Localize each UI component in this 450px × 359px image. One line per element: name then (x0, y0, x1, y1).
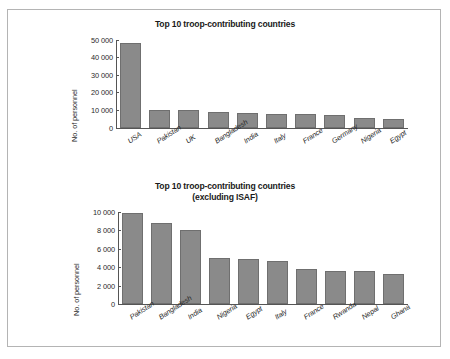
figure-frame: Top 10 troop-contributing countries No. … (7, 9, 441, 347)
bar (208, 112, 229, 127)
chart-bottom-subtitle: (excluding ISAF) (8, 192, 442, 203)
bar (209, 258, 230, 304)
bar-cell (292, 212, 321, 304)
x-tick-label: UK (184, 132, 197, 145)
bar-cell (320, 40, 349, 128)
bar (296, 269, 317, 304)
y-tick-mark (116, 57, 119, 58)
bar (267, 261, 288, 304)
y-tick-mark (116, 92, 119, 93)
bar (354, 271, 375, 304)
y-tick-label: 0 (109, 123, 113, 132)
y-tick-mark (116, 75, 119, 76)
y-tick-label: 0 (111, 300, 115, 309)
bar-cell (204, 40, 233, 128)
x-tick-label: Nepal (359, 304, 379, 322)
y-tick-mark (118, 304, 121, 305)
bar-cell (205, 212, 234, 304)
chart-bottom-y-tick-labels: 02 0004 0006 0008 00010 000 (71, 212, 115, 304)
chart-bottom-title-text: Top 10 troop-contributing countries (155, 181, 295, 191)
y-tick-label: 20 000 (91, 88, 113, 97)
bar (295, 114, 316, 127)
y-tick-mark (116, 128, 119, 129)
y-tick-label: 10 000 (93, 208, 115, 217)
bar (151, 223, 172, 304)
x-tick-label: India (185, 306, 203, 322)
x-tick-label: India (242, 129, 260, 145)
bar (178, 110, 199, 127)
bar-cell (176, 212, 205, 304)
y-tick-label: 50 000 (91, 35, 113, 44)
bar-cell (116, 40, 145, 128)
chart-top-title-text: Top 10 troop-contributing countries (155, 19, 295, 29)
y-tick-label: 40 000 (91, 53, 113, 62)
bar-cell (350, 212, 379, 304)
bar-cell (379, 212, 408, 304)
y-tick-label: 2 000 (97, 281, 115, 290)
y-tick-label: 4 000 (97, 263, 115, 272)
chart-top-plot-area: No. of personnel 010 00020 00030 00040 0… (8, 30, 442, 152)
bar-cell (262, 40, 291, 128)
bar-cell (350, 40, 379, 128)
bar (238, 259, 259, 304)
chart-bottom-title: Top 10 troop-contributing countries (exc… (8, 178, 442, 202)
y-tick-mark (116, 40, 119, 41)
bar-cell (263, 212, 292, 304)
bar (122, 213, 143, 304)
bar-cell (147, 212, 176, 304)
bar-cell (233, 40, 262, 128)
chart-top-bars (116, 40, 408, 128)
x-tick-label: Italy (271, 130, 287, 145)
x-tick-label: USA (126, 129, 143, 145)
y-tick-label: 10 000 (91, 105, 113, 114)
y-tick-mark (118, 212, 121, 213)
chart-bottom-plot-area: No. of personnel 02 0004 0006 0008 00010… (8, 202, 442, 328)
bar (180, 230, 201, 304)
chart-top-y-tick-labels: 010 00020 00030 00040 00050 000 (69, 40, 113, 128)
bar (383, 119, 404, 128)
y-tick-label: 8 000 (97, 226, 115, 235)
y-tick-label: 6 000 (97, 244, 115, 253)
bar-cell (321, 212, 350, 304)
bar (324, 115, 345, 127)
y-tick-mark (118, 230, 121, 231)
bar (266, 114, 287, 128)
y-tick-mark (116, 110, 119, 111)
y-tick-mark (118, 267, 121, 268)
bar (120, 43, 141, 127)
y-tick-label: 30 000 (91, 70, 113, 79)
y-tick-mark (118, 286, 121, 287)
x-tick-label: Egypt (388, 127, 408, 144)
chart-bottom-bars (118, 212, 408, 304)
chart-top: Top 10 troop-contributing countries No. … (8, 16, 442, 178)
x-tick-label: Egypt (243, 304, 263, 321)
chart-top-title: Top 10 troop-contributing countries (8, 16, 442, 30)
bar-cell (174, 40, 203, 128)
bar-cell (234, 212, 263, 304)
chart-top-x-axis-line (116, 128, 408, 129)
chart-bottom-x-axis-line (118, 304, 408, 305)
chart-bottom: Top 10 troop-contributing countries (exc… (8, 178, 442, 340)
x-tick-label: Italy (272, 307, 288, 322)
bar (149, 110, 170, 127)
x-tick-label: Ghana (388, 302, 411, 321)
bar-cell (118, 212, 147, 304)
bar-cell (145, 40, 174, 128)
bar (325, 271, 346, 304)
y-tick-mark (118, 249, 121, 250)
bar (383, 274, 404, 304)
bar-cell (291, 40, 320, 128)
bar-cell (379, 40, 408, 128)
